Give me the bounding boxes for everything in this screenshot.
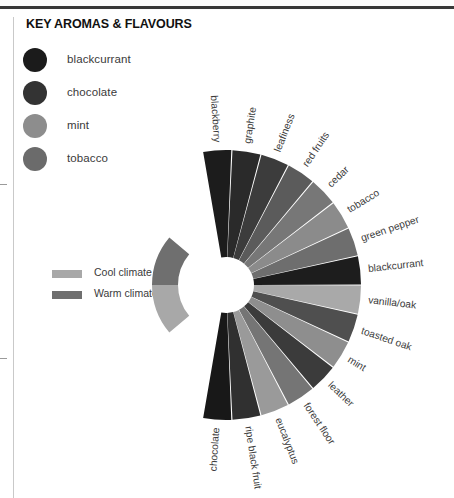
fan-segment-label: eucalyptus [273,416,301,465]
chart-page: KEY AROMAS & FLAVOURS blackcurrant choco… [0,0,454,498]
fan-segment-label: blackberry [209,95,223,144]
fan-segment-label: chocolate [207,427,221,472]
aroma-fan-chart: blackberrygraphiteleafinessred fruitsced… [0,0,454,498]
fan-segment-label: ripe black fruit [243,425,264,490]
fan-segment-label: red fruits [300,130,331,169]
fan-segment-label: toasted oak [360,325,414,353]
fan-segment-label: mint [346,354,368,373]
fan-segment [203,313,231,420]
fan-segment-label: green pepper [359,213,421,243]
fan-segment-label: cedar [325,163,351,189]
fan-segment-label: leafiness [272,112,297,153]
fan-segment [203,150,231,257]
fan-segment-group [203,150,361,420]
fan-segment-label: graphite [242,106,259,144]
climate-arc-segment [152,285,189,333]
fan-segment-label: blackcurrant [368,257,425,274]
fan-segment-label: tobacco [345,187,381,215]
fan-segment-label: leather [326,379,357,409]
fan-segment-label: forest floor [302,400,338,447]
climate-arc-group [152,237,189,332]
fan-segment-label: vanilla/oak [368,294,418,310]
climate-arc-segment [152,237,189,285]
